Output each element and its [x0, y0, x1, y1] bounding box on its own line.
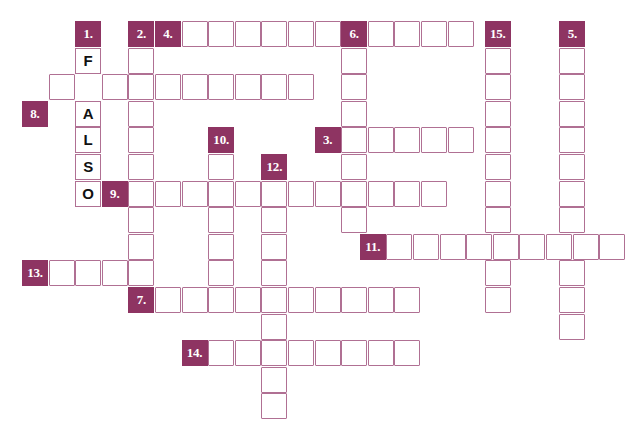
crossword-cell[interactable]: [208, 74, 234, 100]
crossword-cell[interactable]: [341, 48, 367, 74]
crossword-cell[interactable]: [128, 48, 154, 74]
crossword-cell[interactable]: [493, 234, 519, 260]
crossword-cell[interactable]: [559, 314, 585, 340]
crossword-cell[interactable]: [394, 21, 420, 47]
crossword-cell[interactable]: [49, 260, 75, 286]
crossword-cell[interactable]: [559, 101, 585, 127]
crossword-cell[interactable]: [182, 21, 208, 47]
crossword-cell[interactable]: [235, 74, 261, 100]
crossword-cell[interactable]: [128, 181, 154, 207]
crossword-cell[interactable]: [448, 127, 474, 153]
crossword-cell[interactable]: [546, 234, 572, 260]
crossword-cell[interactable]: [261, 367, 287, 393]
crossword-cell[interactable]: [341, 154, 367, 180]
crossword-cell[interactable]: [341, 340, 367, 366]
crossword-cell[interactable]: [208, 154, 234, 180]
crossword-cell[interactable]: [341, 101, 367, 127]
crossword-cell[interactable]: [288, 21, 314, 47]
crossword-cell[interactable]: [235, 181, 261, 207]
crossword-cell[interactable]: [315, 340, 341, 366]
crossword-cell[interactable]: [235, 21, 261, 47]
crossword-cell-filled[interactable]: F: [75, 48, 101, 74]
crossword-cell[interactable]: [519, 234, 545, 260]
crossword-cell[interactable]: [288, 287, 314, 313]
crossword-cell[interactable]: [288, 74, 314, 100]
crossword-cell[interactable]: [128, 74, 154, 100]
crossword-cell[interactable]: [128, 154, 154, 180]
crossword-cell[interactable]: [559, 48, 585, 74]
crossword-cell[interactable]: [261, 74, 287, 100]
crossword-cell[interactable]: [368, 287, 394, 313]
crossword-cell[interactable]: [368, 21, 394, 47]
crossword-cell[interactable]: [368, 181, 394, 207]
crossword-cell[interactable]: [368, 340, 394, 366]
crossword-cell[interactable]: [128, 234, 154, 260]
crossword-cell[interactable]: [315, 287, 341, 313]
crossword-cell[interactable]: [208, 181, 234, 207]
crossword-cell[interactable]: [559, 207, 585, 233]
crossword-cell[interactable]: [485, 287, 511, 313]
crossword-cell[interactable]: [559, 74, 585, 100]
crossword-cell[interactable]: [128, 101, 154, 127]
crossword-cell[interactable]: [128, 207, 154, 233]
crossword-cell[interactable]: [559, 287, 585, 313]
crossword-cell[interactable]: [485, 74, 511, 100]
crossword-cell[interactable]: [413, 234, 439, 260]
crossword-cell[interactable]: [448, 21, 474, 47]
crossword-cell[interactable]: [261, 260, 287, 286]
crossword-cell[interactable]: [341, 287, 367, 313]
crossword-cell[interactable]: [315, 181, 341, 207]
crossword-cell[interactable]: [559, 127, 585, 153]
crossword-cell[interactable]: [315, 21, 341, 47]
crossword-cell[interactable]: [182, 181, 208, 207]
crossword-cell[interactable]: [288, 340, 314, 366]
crossword-cell[interactable]: [394, 287, 420, 313]
crossword-cell[interactable]: [208, 234, 234, 260]
crossword-cell[interactable]: [261, 207, 287, 233]
crossword-cell[interactable]: [485, 260, 511, 286]
crossword-cell[interactable]: [485, 207, 511, 233]
crossword-cell[interactable]: [559, 260, 585, 286]
crossword-cell[interactable]: [49, 74, 75, 100]
crossword-cell[interactable]: [485, 127, 511, 153]
crossword-cell[interactable]: [341, 181, 367, 207]
crossword-cell[interactable]: [128, 260, 154, 286]
crossword-cell[interactable]: [102, 74, 128, 100]
crossword-cell[interactable]: [208, 260, 234, 286]
crossword-cell[interactable]: [261, 234, 287, 260]
crossword-cell[interactable]: [421, 21, 447, 47]
crossword-cell[interactable]: [368, 127, 394, 153]
crossword-cell-filled[interactable]: L: [75, 127, 101, 153]
crossword-cell-filled[interactable]: S: [75, 154, 101, 180]
crossword-cell[interactable]: [559, 154, 585, 180]
crossword-cell[interactable]: [261, 287, 287, 313]
crossword-cell[interactable]: [155, 74, 181, 100]
crossword-cell[interactable]: [341, 74, 367, 100]
crossword-cell[interactable]: [208, 207, 234, 233]
crossword-cell[interactable]: [208, 287, 234, 313]
crossword-cell[interactable]: [182, 74, 208, 100]
crossword-cell[interactable]: [235, 340, 261, 366]
crossword-cell[interactable]: [394, 181, 420, 207]
crossword-cell[interactable]: [155, 287, 181, 313]
crossword-cell[interactable]: [485, 154, 511, 180]
crossword-cell[interactable]: [485, 181, 511, 207]
crossword-cell[interactable]: [466, 234, 492, 260]
crossword-cell[interactable]: [261, 181, 287, 207]
crossword-cell[interactable]: [261, 340, 287, 366]
crossword-cell[interactable]: [394, 127, 420, 153]
crossword-cell[interactable]: [155, 181, 181, 207]
crossword-cell[interactable]: [421, 181, 447, 207]
crossword-cell[interactable]: [288, 181, 314, 207]
crossword-cell[interactable]: [182, 287, 208, 313]
crossword-cell[interactable]: [485, 48, 511, 74]
crossword-cell[interactable]: [208, 21, 234, 47]
crossword-cell[interactable]: [559, 181, 585, 207]
crossword-cell[interactable]: [386, 234, 412, 260]
crossword-cell[interactable]: [599, 234, 625, 260]
crossword-cell[interactable]: [235, 287, 261, 313]
crossword-cell[interactable]: [261, 314, 287, 340]
crossword-cell[interactable]: [208, 340, 234, 366]
crossword-cell[interactable]: [485, 101, 511, 127]
crossword-cell[interactable]: [421, 127, 447, 153]
